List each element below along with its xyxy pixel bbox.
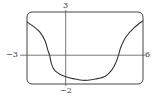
x-max-label: 6 — [145, 51, 150, 59]
viewing-window-frame — [27, 12, 143, 84]
graph-canvas — [0, 0, 152, 97]
function-curve — [27, 21, 143, 81]
y-min-label: −2 — [60, 87, 72, 95]
y-max-label: 3 — [63, 2, 68, 10]
x-min-label: −3 — [6, 51, 18, 59]
